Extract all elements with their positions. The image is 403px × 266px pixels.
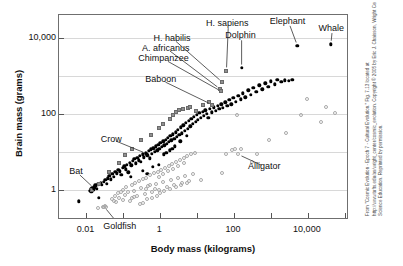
data-point	[124, 185, 128, 189]
data-point	[183, 174, 187, 178]
data-point	[168, 117, 172, 121]
x-tick-mark	[86, 213, 87, 218]
x-tick-label: 10,000	[293, 224, 321, 234]
data-point	[120, 173, 123, 176]
data-point	[191, 172, 195, 176]
label-leader-lines	[59, 15, 348, 219]
data-point	[176, 164, 180, 168]
data-point	[141, 169, 144, 172]
data-point	[139, 138, 143, 142]
data-point	[123, 153, 127, 157]
data-point	[261, 88, 264, 91]
data-point	[224, 152, 228, 156]
labeled-data-point	[210, 103, 214, 107]
credit-text: From "Cosmic Evolution - Epoch 7 - Cultu…	[365, 2, 385, 216]
data-point	[239, 147, 243, 151]
data-point	[126, 171, 129, 174]
data-point	[284, 131, 288, 135]
data-point	[157, 175, 161, 179]
data-point	[193, 151, 197, 155]
x-tick-mark	[197, 213, 198, 218]
data-point	[97, 182, 101, 186]
data-point	[235, 113, 239, 117]
labeled-data-point	[220, 80, 224, 84]
data-point	[132, 195, 136, 199]
x-tick-label: 1	[157, 224, 162, 234]
gridline	[59, 190, 347, 191]
data-point	[130, 147, 134, 151]
point-label-crow: Crow	[101, 134, 122, 144]
data-point	[333, 111, 337, 115]
data-point	[185, 181, 189, 185]
leader-line	[80, 175, 92, 186]
point-label-a-africanus: A. africanus	[142, 43, 190, 53]
x-tick-mark	[271, 213, 272, 218]
data-point	[176, 128, 179, 131]
data-point	[173, 145, 176, 148]
data-point	[162, 189, 166, 193]
data-point	[291, 78, 294, 81]
data-point	[267, 85, 270, 88]
data-point	[139, 160, 142, 163]
data-point	[161, 172, 165, 176]
x-tick-label: 0.01	[77, 224, 95, 234]
data-point	[228, 98, 231, 101]
gridline	[59, 38, 347, 39]
point-label-alligator: Alligator	[248, 161, 281, 171]
y-tick-mark	[59, 114, 64, 115]
data-point	[179, 140, 182, 143]
y-tick-mark	[59, 38, 64, 39]
y-tick-mark	[59, 190, 64, 191]
data-point	[154, 182, 158, 186]
x-tick-mark	[345, 213, 346, 218]
data-point	[114, 200, 118, 204]
data-point	[97, 196, 100, 199]
data-point	[305, 97, 309, 101]
leader-line	[106, 209, 118, 219]
x-tick-mark	[308, 213, 309, 218]
labeled-data-point	[240, 66, 243, 69]
data-point	[199, 178, 203, 182]
labeled-data-point	[236, 152, 240, 156]
y-tick-label: 1	[10, 184, 56, 194]
data-point	[225, 104, 228, 107]
data-point	[150, 196, 154, 200]
point-label-h-sapiens: H. sapiens	[206, 18, 249, 28]
data-point	[239, 98, 242, 101]
plot-area	[58, 14, 348, 219]
data-point	[161, 122, 165, 126]
data-point	[132, 189, 136, 193]
point-label-whale: Whale	[319, 23, 345, 33]
data-point	[207, 116, 210, 119]
point-label-goldfish: Goldfish	[103, 221, 136, 231]
leader-line	[165, 82, 208, 103]
data-point	[77, 200, 80, 203]
data-point	[233, 147, 237, 151]
data-point	[170, 147, 173, 150]
point-label-dolphin: Dolphin	[225, 30, 256, 40]
labeled-data-point	[329, 43, 332, 46]
point-label-h-habilis: H. habilis	[153, 33, 190, 43]
data-point	[112, 175, 115, 178]
data-point	[324, 105, 328, 109]
data-point	[158, 191, 162, 195]
data-point	[188, 105, 192, 109]
data-point	[161, 180, 165, 184]
data-point	[151, 165, 154, 168]
data-point	[171, 167, 175, 171]
data-point	[126, 190, 130, 194]
data-point	[149, 133, 153, 137]
data-point	[230, 102, 233, 105]
data-point	[169, 178, 173, 182]
data-point	[139, 186, 143, 190]
data-point	[273, 83, 276, 86]
point-label-chimpanzee: Chimpanzee	[138, 53, 189, 63]
data-point	[109, 177, 112, 180]
x-tick-label: 100	[226, 224, 241, 234]
data-point	[179, 183, 183, 187]
point-label-elephant: Elephant	[270, 16, 306, 26]
x-tick-mark	[234, 213, 235, 218]
labeled-data-point	[224, 69, 228, 73]
data-point	[185, 134, 188, 137]
data-point	[166, 169, 170, 173]
